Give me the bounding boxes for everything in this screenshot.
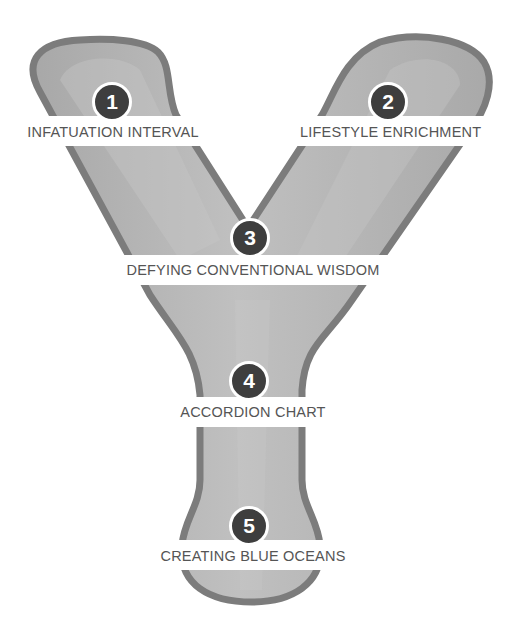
step-2-badge: 2: [368, 82, 408, 122]
step-3-badge: 3: [230, 218, 270, 258]
y-diagram: 1 INFATUATION INTERVAL 2 LIFESTYLE ENRIC…: [0, 0, 506, 628]
step-3-label: DEFYING CONVENTIONAL WISDOM: [110, 260, 396, 280]
step-5-badge: 5: [229, 506, 269, 546]
step-5-label: CREATING BLUE OCEANS: [140, 546, 366, 566]
step-2-label: LIFESTYLE ENRICHMENT: [300, 122, 480, 142]
step-4-badge: 4: [229, 361, 269, 401]
step-1-label: INFATUATION INTERVAL: [20, 122, 206, 142]
step-1-badge: 1: [92, 82, 132, 122]
step-4-label: ACCORDION CHART: [160, 402, 346, 422]
